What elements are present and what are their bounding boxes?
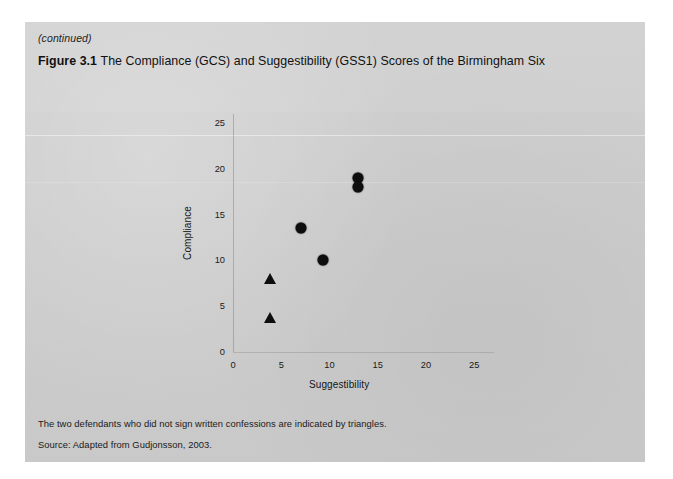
y-axis-tick-label: 5 [207,301,225,311]
y-axis-tick-label: 15 [207,210,225,220]
y-axis-tick-label: 25 [207,118,225,128]
data-point-triangle [264,273,276,284]
x-axis-tick-label: 25 [469,360,479,370]
scatter-plot: 05101520250510152025SuggestibilityCompli… [25,22,645,462]
x-axis-tick-label: 20 [421,360,431,370]
figure-footnote: The two defendants who did not sign writ… [38,418,387,429]
figure-page: (continued) Figure 3.1 The Compliance (G… [0,0,673,479]
data-point-triangle [264,312,276,323]
y-axis-tick-label: 0 [207,347,225,357]
x-axis-tick-label: 15 [373,360,383,370]
y-axis-line [233,114,234,352]
y-axis-tick-label: 10 [207,255,225,265]
x-axis-title: Suggestibility [309,379,369,390]
scanned-figure-panel: (continued) Figure 3.1 The Compliance (G… [25,22,645,462]
x-axis-tick-label: 0 [230,360,235,370]
figure-source: Source: Adapted from Gudjonsson, 2003. [38,439,212,450]
data-point-circle [353,182,364,193]
data-point-circle [295,223,306,234]
x-axis-line [233,352,494,353]
y-axis-tick-label: 20 [207,164,225,174]
data-point-circle [317,255,328,266]
y-axis-title: Compliance [182,206,193,260]
x-axis-tick-label: 5 [279,360,284,370]
x-axis-tick-label: 10 [324,360,334,370]
